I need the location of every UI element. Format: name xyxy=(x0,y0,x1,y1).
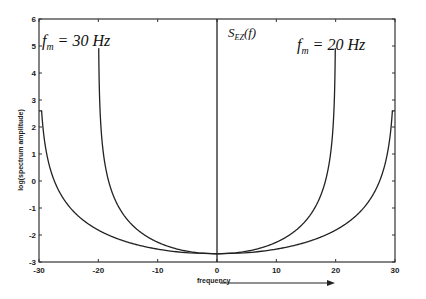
y-tick-label: 6 xyxy=(32,15,37,24)
x-axis-label: frequency xyxy=(197,277,231,285)
x-tick-label: -30 xyxy=(33,266,45,275)
y-tick-label: 1 xyxy=(32,150,37,159)
spectrum-chart: -30-20-100102030-3-2-10123456 fm = 30 Hz… xyxy=(0,0,426,299)
annotations: fm = 30 Hzfm = 20 HzSEZ(f) xyxy=(42,25,366,56)
x-tick-label: 10 xyxy=(272,266,281,275)
x-tick-label: -20 xyxy=(93,266,105,275)
y-tick-label: -2 xyxy=(29,231,37,240)
x-tick-label: -10 xyxy=(152,266,164,275)
y-tick-label: 2 xyxy=(32,123,37,132)
x-tick-label: 30 xyxy=(391,266,400,275)
x-tick-label: 20 xyxy=(331,266,340,275)
y-tick-label: 3 xyxy=(32,96,37,105)
frequency-arrow xyxy=(220,280,335,286)
y-tick-label: 4 xyxy=(32,69,37,78)
y-tick-label: 0 xyxy=(32,177,37,186)
axis-ticks: -30-20-100102030-3-2-10123456 xyxy=(29,15,400,275)
annotation-label: fm = 20 Hz xyxy=(297,36,366,56)
spectrum-curves xyxy=(39,19,395,262)
x-tick-label: 0 xyxy=(215,266,220,275)
annotation-label: SEZ(f) xyxy=(228,25,256,42)
y-tick-label: 5 xyxy=(32,42,37,51)
annotation-label: fm = 30 Hz xyxy=(42,32,111,52)
y-axis-label: log(spectrum amplitude) xyxy=(17,109,25,191)
arrow-head-icon xyxy=(327,280,335,286)
y-tick-label: -1 xyxy=(29,204,37,213)
y-tick-label: -3 xyxy=(29,258,37,267)
